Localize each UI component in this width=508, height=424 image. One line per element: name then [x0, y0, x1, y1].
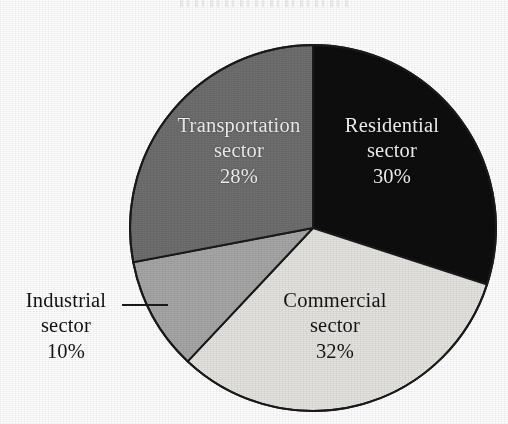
pie-chart-figure: Transportation sector 28% Residential se… — [0, 0, 508, 424]
pie-slice-transportation[interactable] — [130, 45, 313, 262]
pie-chart-svg — [0, 0, 508, 424]
